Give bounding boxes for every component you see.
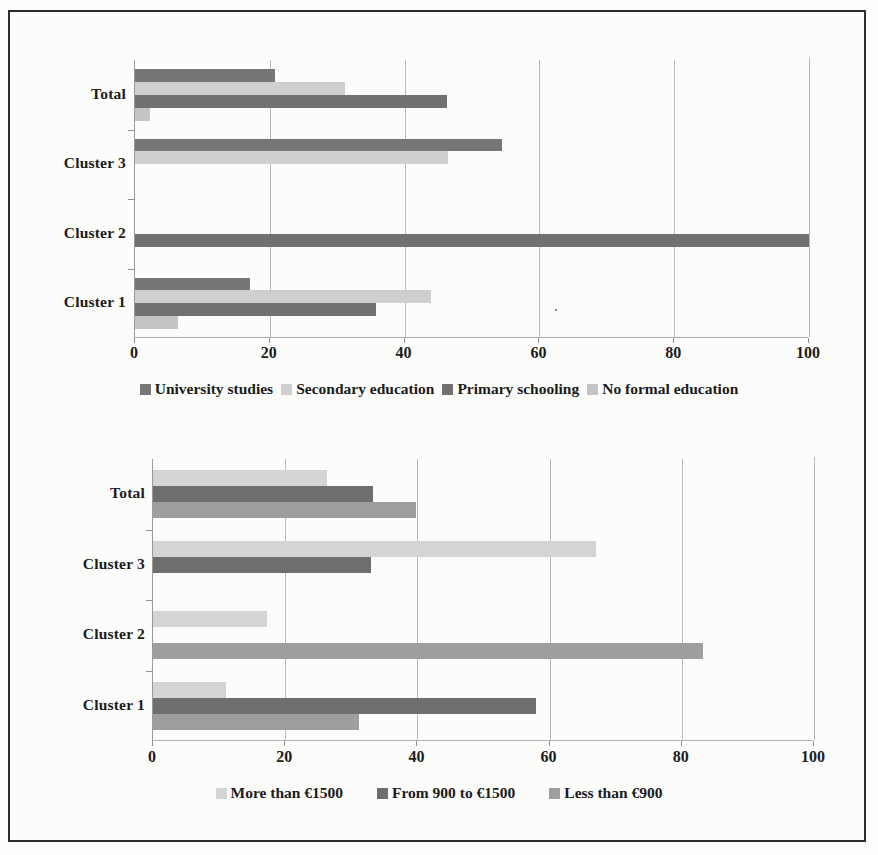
gridline: [682, 459, 683, 740]
category-label: Total: [110, 484, 145, 502]
bar: [153, 714, 359, 730]
x-axis-label: 20: [261, 344, 277, 362]
category-label: Total: [91, 85, 126, 103]
x-axis-tick: [538, 338, 539, 343]
gridline: [539, 60, 540, 337]
scan-artifact: [555, 309, 557, 311]
legend-swatch-icon: [549, 788, 560, 799]
education-plot-area: [134, 60, 808, 338]
bar: [135, 278, 250, 291]
legend-swatch-icon: [442, 384, 453, 395]
education-legend: University studiesSecondary educationPri…: [10, 380, 868, 398]
y-axis-tick: [128, 130, 135, 131]
y-axis-tick: [146, 530, 153, 531]
x-axis-label: 0: [148, 748, 156, 766]
legend-label: Secondary education: [296, 380, 434, 398]
x-axis-tick: [284, 741, 285, 746]
legend-swatch-icon: [216, 788, 227, 799]
gridline-axis-end: [809, 58, 810, 337]
x-axis-tick: [269, 338, 270, 343]
bar: [153, 470, 327, 486]
x-axis-tick: [134, 338, 135, 343]
x-axis-tick: [808, 338, 809, 343]
bar: [153, 698, 536, 714]
legend-swatch-icon: [140, 384, 151, 395]
bar: [135, 139, 502, 152]
x-axis-label: 80: [665, 344, 681, 362]
category-label: Cluster 1: [64, 293, 126, 311]
bar: [153, 557, 371, 573]
bar: [153, 643, 703, 659]
legend-swatch-icon: [587, 384, 598, 395]
bar: [135, 303, 376, 316]
bar: [135, 316, 178, 329]
x-axis-label: 100: [796, 344, 820, 362]
legend-label: From 900 to €1500: [392, 784, 515, 802]
income-legend: More than €1500From 900 to €1500Less tha…: [10, 784, 868, 802]
bar: [135, 69, 275, 82]
x-axis-tick: [673, 338, 674, 343]
x-axis-tick: [813, 741, 814, 746]
bar: [135, 108, 150, 121]
category-label: Cluster 3: [64, 154, 126, 172]
gridline-axis-end: [814, 457, 815, 740]
bar: [135, 82, 345, 95]
bar: [153, 486, 373, 502]
legend-item[interactable]: Less than €900: [549, 784, 662, 802]
legend-label: Primary schooling: [457, 380, 579, 398]
x-axis-tick: [416, 741, 417, 746]
legend-item[interactable]: More than €1500: [216, 784, 344, 802]
category-label: Cluster 2: [83, 625, 145, 643]
gridline: [550, 459, 551, 740]
x-axis-label: 80: [673, 748, 689, 766]
bar: [153, 541, 596, 557]
x-axis-label: 100: [801, 748, 825, 766]
x-axis-label: 40: [408, 748, 424, 766]
education-chart: TotalCluster 3Cluster 2Cluster 1 0204060…: [10, 12, 868, 422]
y-axis-tick: [128, 269, 135, 270]
x-axis-label: 60: [541, 748, 557, 766]
category-label: Cluster 3: [83, 555, 145, 573]
bar: [135, 234, 809, 247]
category-label: Cluster 2: [64, 224, 126, 242]
income-chart: TotalCluster 3Cluster 2Cluster 1 0204060…: [10, 424, 868, 844]
legend-swatch-icon: [377, 788, 388, 799]
legend-swatch-icon: [281, 384, 292, 395]
legend-label: More than €1500: [231, 784, 344, 802]
x-axis-tick: [152, 741, 153, 746]
x-axis-tick: [681, 741, 682, 746]
bar: [135, 290, 431, 303]
bar: [135, 151, 448, 164]
x-axis-label: 20: [276, 748, 292, 766]
x-axis-label: 0: [130, 344, 138, 362]
bar: [153, 502, 416, 518]
y-axis-tick: [146, 671, 153, 672]
category-label: Cluster 1: [83, 696, 145, 714]
x-axis-tick: [549, 741, 550, 746]
x-axis-label: 40: [396, 344, 412, 362]
income-plot-area: [152, 459, 813, 741]
x-axis-tick: [404, 338, 405, 343]
legend-item[interactable]: Primary schooling: [442, 380, 579, 398]
figure-page: TotalCluster 3Cluster 2Cluster 1 0204060…: [0, 0, 878, 855]
legend-item[interactable]: University studies: [140, 380, 273, 398]
y-axis-tick: [146, 600, 153, 601]
legend-label: No formal education: [602, 380, 738, 398]
figure-border: TotalCluster 3Cluster 2Cluster 1 0204060…: [8, 10, 866, 842]
gridline: [674, 60, 675, 337]
legend-item[interactable]: From 900 to €1500: [377, 784, 515, 802]
bar: [153, 611, 267, 627]
legend-item[interactable]: No formal education: [587, 380, 738, 398]
x-axis-label: 60: [530, 344, 546, 362]
y-axis-tick: [128, 199, 135, 200]
legend-label: Less than €900: [564, 784, 662, 802]
legend-label: University studies: [155, 380, 273, 398]
legend-item[interactable]: Secondary education: [281, 380, 434, 398]
bar: [135, 95, 447, 108]
bar: [153, 682, 226, 698]
